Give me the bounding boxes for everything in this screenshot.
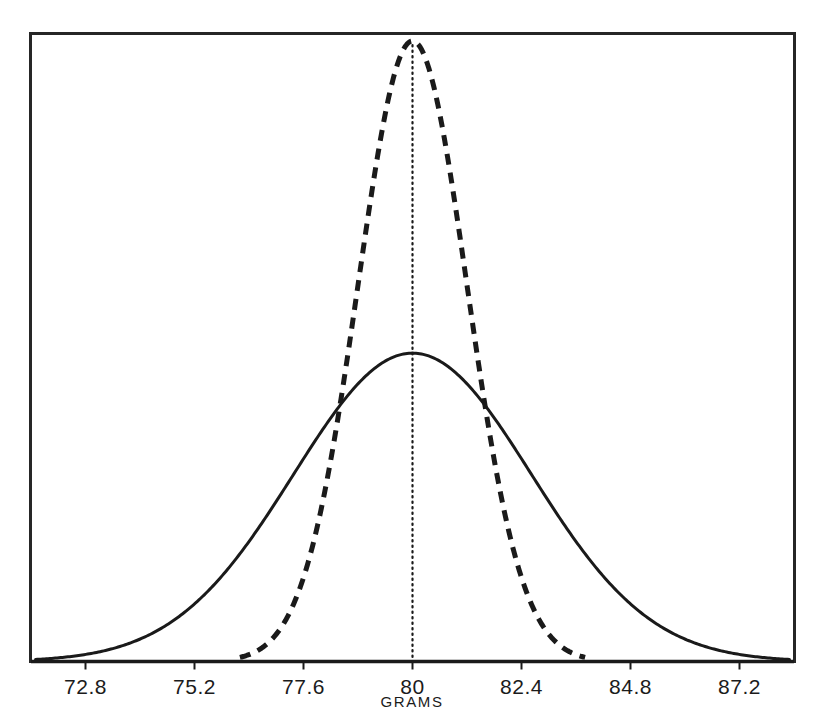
chart-background — [0, 0, 820, 725]
x-tick-label: 82.4 — [500, 675, 543, 698]
x-tick-label: 72.8 — [64, 675, 107, 698]
distribution-chart: 72.875.277.68082.484.887.2 GRAMS — [0, 0, 820, 725]
x-tick-label: 84.8 — [609, 675, 652, 698]
figure-root: 72.875.277.68082.484.887.2 GRAMS — [0, 0, 820, 725]
x-tick-label: 87.2 — [718, 675, 761, 698]
x-tick-label: 77.6 — [282, 675, 325, 698]
x-axis-title: GRAMS — [380, 693, 443, 710]
x-tick-label: 75.2 — [173, 675, 216, 698]
